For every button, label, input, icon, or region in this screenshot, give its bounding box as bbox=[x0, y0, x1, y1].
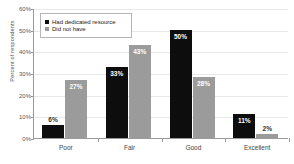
bar-value-label: 28% bbox=[193, 80, 215, 87]
x-axis-category-label: Good bbox=[161, 144, 225, 151]
bar[interactable]: 2% bbox=[256, 134, 278, 138]
chart-title-remnant bbox=[0, 0, 294, 5]
x-axis-category-label: Fair bbox=[98, 144, 162, 151]
x-axis-tick-mark bbox=[162, 138, 163, 142]
bar-value-label: 11% bbox=[233, 117, 255, 124]
y-axis-tick-label: 10% bbox=[19, 114, 31, 120]
y-axis-tick-label: 0% bbox=[22, 136, 31, 142]
bar-group: 50%28%Good bbox=[162, 9, 226, 138]
bar-group: 11%2%Excellent bbox=[225, 9, 289, 138]
bar-value-label: 2% bbox=[256, 125, 278, 132]
bar-value-label: 33% bbox=[106, 70, 128, 77]
bar-chart: Percent of respondents 0%10%20%30%40%50%… bbox=[0, 0, 294, 164]
y-axis-tick-label: 60% bbox=[19, 6, 31, 12]
x-axis-tick-mark bbox=[225, 138, 226, 142]
bar[interactable]: 11% bbox=[233, 114, 255, 138]
x-axis-category-label: Poor bbox=[34, 144, 98, 151]
legend-label: Did not have bbox=[52, 26, 86, 32]
bar[interactable]: 50% bbox=[170, 30, 192, 138]
bar[interactable]: 33% bbox=[106, 67, 128, 139]
y-axis-title: Percent of respondents bbox=[9, 3, 15, 99]
x-axis-tick-mark bbox=[289, 138, 290, 142]
y-axis-tick-label: 40% bbox=[19, 49, 31, 55]
x-axis-tick-mark bbox=[98, 138, 99, 142]
bar[interactable]: 28% bbox=[193, 77, 215, 138]
x-axis-category-label: Excellent bbox=[225, 144, 289, 151]
chart-legend: Had dedicated resourceDid not have bbox=[40, 13, 132, 38]
legend-item[interactable]: Did not have bbox=[45, 26, 127, 32]
bar-value-label: 6% bbox=[42, 116, 64, 123]
y-axis-tick-label: 50% bbox=[19, 28, 31, 34]
bar[interactable]: 6% bbox=[42, 125, 64, 138]
bar-value-label: 43% bbox=[129, 48, 151, 55]
legend-label: Had dedicated resource bbox=[52, 19, 116, 25]
legend-swatch-icon bbox=[45, 27, 49, 31]
legend-item[interactable]: Had dedicated resource bbox=[45, 19, 127, 25]
y-axis-tick-label: 20% bbox=[19, 93, 31, 99]
legend-swatch-icon bbox=[45, 20, 49, 24]
y-axis-tick-label: 30% bbox=[19, 71, 31, 77]
bar[interactable]: 43% bbox=[129, 45, 151, 138]
bar[interactable]: 27% bbox=[65, 80, 87, 139]
bar-value-label: 27% bbox=[65, 83, 87, 90]
y-axis-tick-mark bbox=[31, 139, 34, 140]
bar-value-label: 50% bbox=[170, 33, 192, 40]
